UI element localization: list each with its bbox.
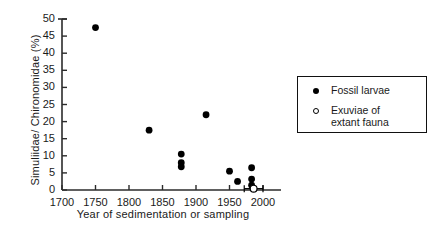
- data-point-exuviae: [250, 185, 257, 192]
- axes: [62, 19, 281, 190]
- data-point-fossil-larvae: [92, 24, 99, 31]
- x-axis-label: Year of sedimentation or sampling: [62, 208, 264, 220]
- chart-figure: 05101520253035404550 1700175018001850190…: [0, 0, 442, 237]
- data-point-fossil-larvae: [146, 127, 153, 134]
- data-point-fossil-larvae: [178, 151, 185, 158]
- data-point-fossil-larvae: [203, 111, 210, 118]
- chart-legend: Fossil larvae Exuviae of extant fauna: [297, 76, 427, 133]
- legend-marker-exuviae-icon: [313, 108, 319, 114]
- legend-marker-fossil-larvae-icon: [313, 88, 319, 94]
- data-point-fossil-larvae: [248, 164, 255, 171]
- data-point-fossil-larvae: [178, 163, 185, 170]
- data-points: [92, 24, 263, 192]
- data-point-fossil-larvae: [248, 176, 255, 183]
- legend-entry-fossil-larvae: Fossil larvae: [331, 84, 390, 96]
- axis-ticks: [58, 19, 263, 190]
- x-tick-label: 2000: [241, 197, 285, 208]
- legend-entry-exuviae: Exuviae of extant fauna: [331, 104, 389, 128]
- y-axis-label: Simuliidae/ Chironomidae (%): [29, 15, 41, 205]
- data-point-fossil-larvae: [226, 168, 233, 175]
- data-point-fossil-larvae: [234, 178, 241, 185]
